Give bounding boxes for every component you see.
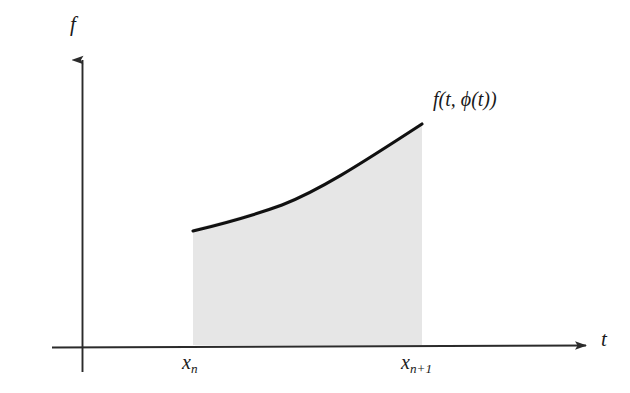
- tick-label-xn1-base: x: [401, 351, 410, 373]
- shaded-integral-area: [193, 122, 422, 345]
- tick-label-xn: xn: [182, 352, 197, 372]
- t-axis-label: t: [601, 329, 607, 350]
- curve-label: f(t, ϕ(t)): [433, 89, 497, 109]
- f-axis-label: f: [70, 14, 76, 35]
- t-axis-line: [52, 346, 586, 348]
- integration-step-figure: f t f(t, ϕ(t)) xn xn+1: [0, 0, 630, 393]
- figure-canvas: [0, 0, 630, 393]
- tick-label-xn-base: x: [182, 351, 191, 373]
- tick-label-xn-subscript: n: [191, 361, 198, 376]
- tick-label-xn1: xn+1: [401, 352, 432, 372]
- tick-label-xn1-subscript: n+1: [410, 361, 432, 376]
